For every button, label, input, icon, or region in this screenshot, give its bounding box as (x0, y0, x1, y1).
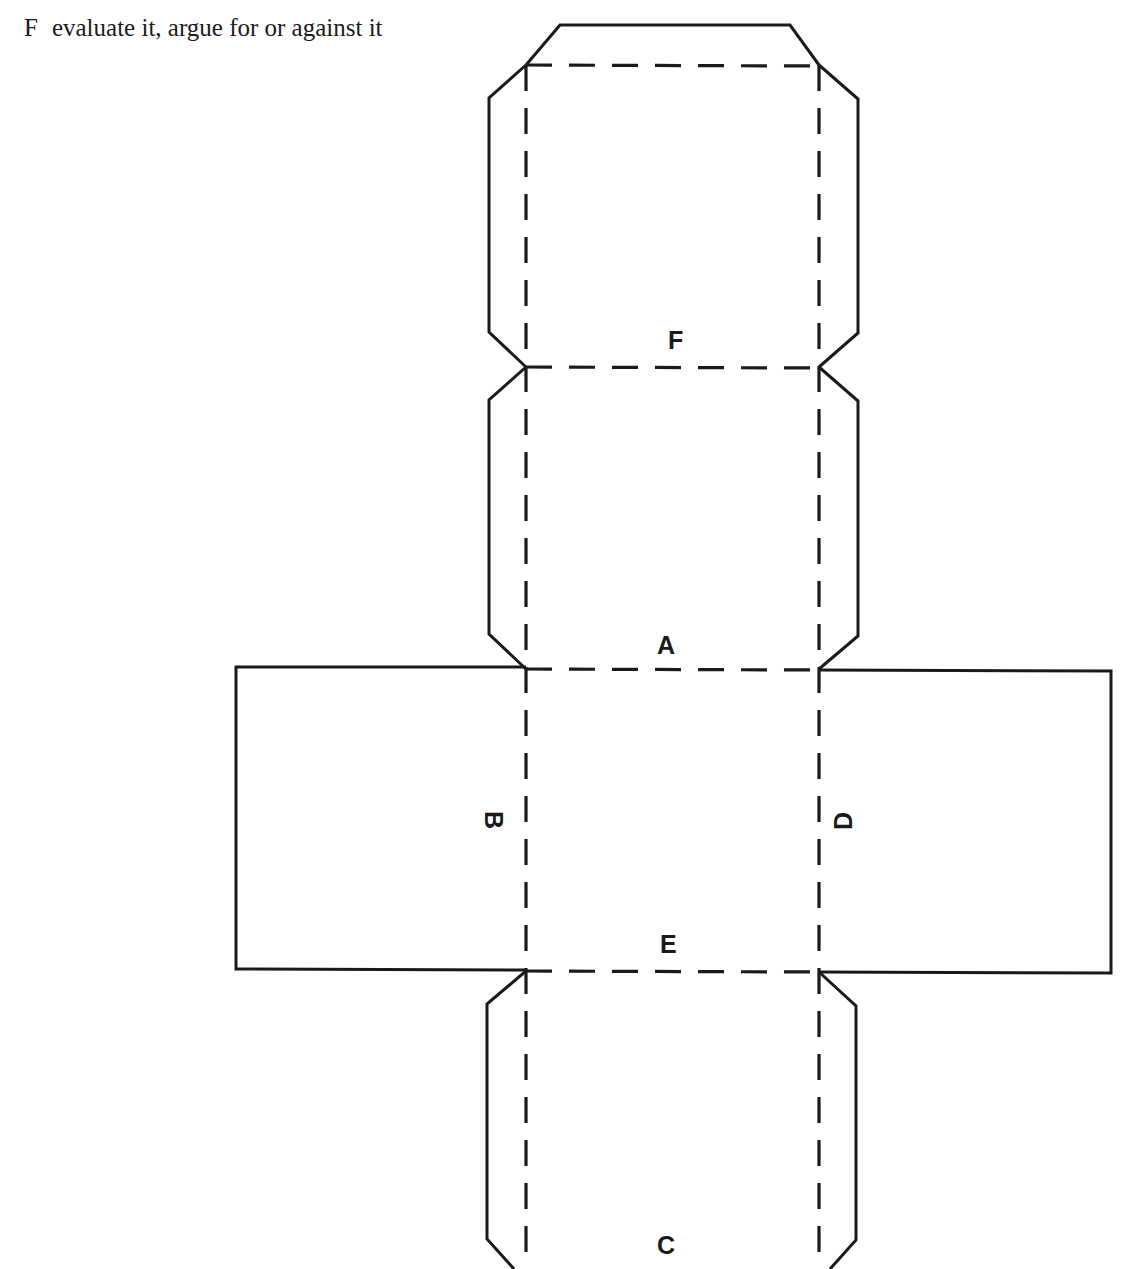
face-label-a: A (657, 631, 675, 659)
fold-line-a-e (526, 669, 819, 670)
face-c-left-tab (487, 971, 526, 1269)
face-label-f: F (668, 326, 683, 354)
face-d-outline (819, 670, 1111, 973)
fold-line-top (526, 65, 819, 66)
face-label-d: D (829, 812, 857, 830)
face-a-right-tab (819, 367, 858, 669)
cube-net-diagram: F A B D E C (0, 0, 1134, 1269)
top-flap-outline (526, 25, 819, 65)
fold-line-f-a (526, 367, 819, 368)
face-label-e: E (660, 930, 677, 958)
fold-line-e-c (526, 971, 819, 972)
face-f-right-tab (819, 65, 858, 367)
face-c-right-tab (819, 972, 856, 1269)
face-f-left-tab (489, 65, 526, 367)
face-label-b: B (480, 811, 508, 829)
face-label-c: C (657, 1231, 675, 1259)
face-a-left-tab (489, 367, 526, 669)
